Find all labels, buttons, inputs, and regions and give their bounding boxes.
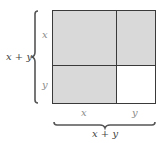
label-left-top: x [42, 30, 48, 40]
label-left-total: x + y [6, 52, 32, 62]
brace-lines [0, 0, 162, 143]
label-bottom-total: x + y [92, 129, 118, 139]
label-bottom-left: x [81, 108, 87, 118]
label-left-bottom: y [42, 80, 48, 90]
label-bottom-right: y [132, 108, 138, 118]
left-brace-icon [32, 11, 38, 103]
